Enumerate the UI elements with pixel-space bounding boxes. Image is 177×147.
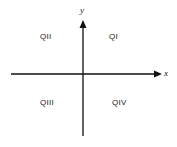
coordinate-plane — [0, 0, 177, 147]
quadrant-4-label: QIV — [112, 98, 127, 107]
y-axis-arrow-icon — [80, 20, 87, 28]
x-axis-label: x — [164, 68, 168, 78]
quadrant-2-label: QII — [40, 32, 52, 41]
y-axis-label: y — [80, 5, 84, 15]
quadrant-1-label: QI — [109, 32, 118, 41]
x-axis-arrow-icon — [154, 71, 162, 78]
quadrant-3-label: QIII — [40, 98, 54, 107]
